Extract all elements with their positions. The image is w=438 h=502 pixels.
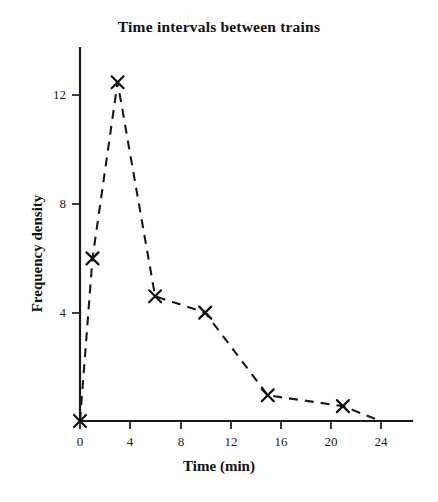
y-tick-label-12: 12	[26, 87, 66, 103]
chart-page: Time intervals between trains 0 4 8 1	[0, 0, 438, 502]
data-point-marker	[149, 290, 161, 302]
data-point-markers	[74, 76, 349, 427]
data-series-line	[80, 82, 381, 421]
x-tick-label-16: 16	[263, 434, 299, 450]
x-tick-label-20: 20	[313, 434, 349, 450]
plot-area	[0, 0, 438, 502]
x-axis-title: Time (min)	[0, 458, 438, 475]
x-axis-ticks	[80, 421, 381, 429]
x-tick-label-0: 0	[62, 434, 98, 450]
y-axis-title: Frequency density	[29, 154, 46, 354]
x-tick-label-8: 8	[163, 434, 199, 450]
x-tick-label-24: 24	[363, 434, 399, 450]
x-tick-label-4: 4	[112, 434, 148, 450]
data-point-marker	[199, 307, 211, 319]
x-tick-label-12: 12	[213, 434, 249, 450]
data-point-marker	[262, 389, 274, 401]
y-axis-ticks	[72, 95, 80, 313]
